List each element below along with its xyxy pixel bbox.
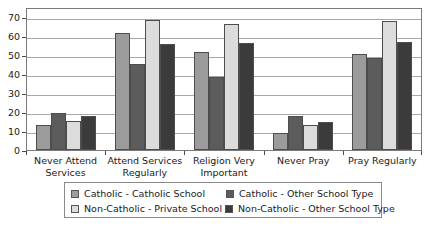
y-tick-mark bbox=[22, 75, 26, 76]
bar[interactable] bbox=[160, 44, 175, 150]
x-axis-label-line: Attend Services bbox=[105, 155, 184, 167]
y-tick-label: 60 bbox=[8, 32, 20, 42]
y-tick-label: 50 bbox=[8, 51, 20, 61]
bar-group bbox=[106, 9, 185, 150]
y-tick-label: 30 bbox=[8, 89, 20, 99]
legend-item-label: Non-Catholic - Private School bbox=[84, 204, 222, 214]
bar-groups bbox=[27, 9, 421, 150]
x-axis-label-line: Never Attend bbox=[26, 155, 105, 167]
x-axis-label: Attend ServicesRegularly bbox=[105, 155, 184, 178]
legend-item-label: Catholic - Other School Type bbox=[239, 189, 373, 199]
x-axis-label: Religion VeryImportant bbox=[184, 155, 263, 178]
x-axis-label-line: Religion Very bbox=[184, 155, 263, 167]
bar[interactable] bbox=[130, 64, 145, 150]
plot-wrap bbox=[26, 8, 422, 151]
legend-row: Non-Catholic - Private School Non-Cathol… bbox=[71, 201, 375, 216]
y-tick-label: 40 bbox=[8, 70, 20, 80]
x-axis-label-line: Never Pray bbox=[264, 155, 343, 167]
legend-item-catholic-other-school-type: Catholic - Other School Type bbox=[226, 186, 375, 201]
legend-swatch-icon bbox=[226, 190, 234, 198]
bar[interactable] bbox=[318, 122, 333, 150]
x-axis-labels: Never AttendServicesAttend ServicesRegul… bbox=[26, 155, 422, 178]
y-tick-mark bbox=[22, 113, 26, 114]
bar[interactable] bbox=[51, 113, 66, 150]
bar[interactable] bbox=[209, 77, 224, 150]
bar[interactable] bbox=[273, 133, 288, 150]
y-tick-mark bbox=[22, 37, 26, 38]
y-tick-label: 20 bbox=[8, 108, 20, 118]
bar-group bbox=[185, 9, 264, 150]
bar[interactable] bbox=[303, 125, 318, 150]
bar-group bbox=[342, 9, 421, 150]
x-axis-label-line: Pray Regularly bbox=[343, 155, 422, 167]
bar-group bbox=[27, 9, 106, 150]
y-tick-label: 70 bbox=[8, 13, 20, 23]
legend-item-catholic-catholic-school: Catholic - Catholic School bbox=[71, 186, 226, 201]
y-tick-mark bbox=[22, 132, 26, 133]
legend-item-non-catholic-private-school: Non-Catholic - Private School bbox=[71, 201, 225, 216]
legend-item-non-catholic-other-school-type: Non-Catholic - Other School Type bbox=[225, 201, 375, 216]
bar[interactable] bbox=[115, 33, 130, 150]
bar[interactable] bbox=[224, 24, 239, 150]
x-axis-label: Pray Regularly bbox=[343, 155, 422, 178]
bar[interactable] bbox=[36, 125, 51, 150]
y-axis: 010203040506070 bbox=[0, 8, 24, 151]
legend-swatch-icon bbox=[71, 190, 79, 198]
y-tick-label: 10 bbox=[8, 127, 20, 137]
bar[interactable] bbox=[239, 43, 254, 150]
bar[interactable] bbox=[66, 121, 81, 150]
bar-chart: 010203040506070 Never AttendServicesAtte… bbox=[0, 0, 431, 226]
legend-item-label: Catholic - Catholic School bbox=[84, 189, 205, 199]
x-axis-label-line: Important bbox=[184, 167, 263, 179]
y-tick-label: 0 bbox=[14, 146, 20, 156]
bar[interactable] bbox=[288, 116, 303, 150]
x-axis-label: Never Pray bbox=[264, 155, 343, 178]
x-axis-label-line: Services bbox=[26, 167, 105, 179]
legend-swatch-icon bbox=[71, 205, 79, 213]
bar[interactable] bbox=[81, 116, 96, 150]
legend: Catholic - Catholic School Catholic - Ot… bbox=[64, 182, 382, 218]
x-axis-label-line: Regularly bbox=[105, 167, 184, 179]
bar-group bbox=[263, 9, 342, 150]
y-tick-mark bbox=[22, 56, 26, 57]
legend-row: Catholic - Catholic School Catholic - Ot… bbox=[71, 186, 375, 201]
bar[interactable] bbox=[352, 54, 367, 150]
legend-item-label: Non-Catholic - Other School Type bbox=[238, 204, 395, 214]
plot-area bbox=[26, 8, 422, 151]
x-axis-label: Never AttendServices bbox=[26, 155, 105, 178]
bar[interactable] bbox=[397, 42, 412, 150]
y-tick-mark bbox=[22, 18, 26, 19]
bar[interactable] bbox=[194, 52, 209, 150]
bar[interactable] bbox=[145, 20, 160, 150]
y-tick-mark bbox=[22, 151, 26, 152]
legend-swatch-icon bbox=[225, 205, 233, 213]
bar[interactable] bbox=[367, 58, 382, 150]
y-tick-mark bbox=[22, 94, 26, 95]
bar[interactable] bbox=[382, 21, 397, 150]
